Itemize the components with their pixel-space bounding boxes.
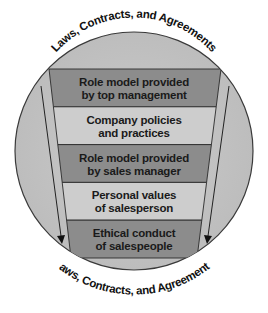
funnel-band-label-line1: Personal values [92, 189, 177, 201]
funnel-band-label-line1: Role model provided [79, 76, 189, 88]
funnel-band-label-line2: by top management [81, 89, 187, 101]
ethics-funnel-diagram: Role model providedby top managementComp… [0, 0, 268, 313]
funnel-band-label-line2: and practices [98, 127, 170, 139]
funnel-band-label-line2: by sales manager [87, 165, 181, 177]
funnel-band-label-line1: Ethical conduct [93, 227, 176, 239]
funnel-band-label-line2: of salesperson [95, 202, 174, 214]
funnel-band-label-line1: Role model provided [79, 152, 189, 164]
funnel-band-label-line2: of salespeople [95, 240, 172, 252]
funnel-band [58, 145, 212, 183]
funnel-band-label-line1: Company policies [86, 114, 181, 126]
